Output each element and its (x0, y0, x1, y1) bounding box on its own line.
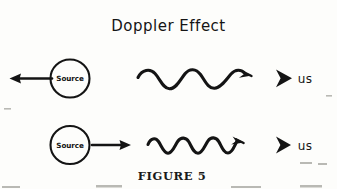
row2-observer-arrowhead-icon (276, 137, 291, 154)
figure-title: Doppler Effect (111, 17, 226, 35)
row2-observer-label: us (298, 139, 312, 153)
row2-source-label: Source (56, 141, 84, 150)
receding-source-row: Source us (10, 60, 313, 98)
figure-canvas: Doppler Effect Source (0, 0, 337, 189)
figure-caption: FIGURE 5 (138, 169, 207, 183)
row2-source-circle: Source (51, 126, 90, 164)
row1-long-wavelength-wave (138, 70, 252, 89)
doppler-effect-figure: Doppler Effect Source (0, 0, 337, 189)
row1-observer-label: us (298, 72, 312, 86)
row1-motion-arrow-left (10, 74, 53, 84)
row2-motion-arrow-right (92, 140, 131, 150)
row2-short-wavelength-wave (148, 137, 244, 154)
row1-source-circle: Source (51, 60, 90, 98)
row1-source-label: Source (56, 74, 84, 83)
approaching-source-row: Source us (51, 126, 313, 164)
row1-observer-arrowhead-icon (276, 70, 292, 88)
